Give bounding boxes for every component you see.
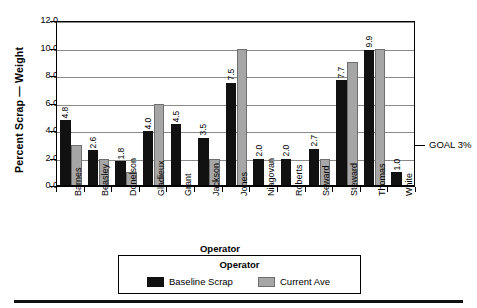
bar-baseline-scrap[interactable] <box>115 161 126 186</box>
x-tick-label: Donelson <box>129 158 138 196</box>
x-tick-label: Barnes <box>74 167 83 196</box>
bar-value-label: 7.7 <box>337 66 346 78</box>
bar-group: 2.0 <box>278 22 306 186</box>
chart-page: Percent Scrap — Weight 0.02.04.06.08.010… <box>0 0 477 308</box>
legend-label: Baseline Scrap <box>169 277 233 287</box>
goal-tick-mark <box>415 145 425 146</box>
x-tick-mark <box>111 187 112 192</box>
x-tick-label: Grant <box>184 173 193 196</box>
bar-value-label: 2.0 <box>282 145 291 157</box>
bar-group: 4.5 <box>167 22 195 186</box>
x-tick-label: Steward <box>350 163 359 196</box>
bar-value-label: 4.8 <box>61 106 70 118</box>
x-tick-mark <box>305 187 306 192</box>
x-axis-title: Operator <box>160 243 280 254</box>
x-tick-mark <box>387 187 388 192</box>
x-tick-mark <box>360 187 361 192</box>
bar-value-label: 2.7 <box>309 135 318 147</box>
legend-swatch-current-ave <box>258 277 275 287</box>
bar-group: 2.6 <box>85 22 113 186</box>
bar-baseline-scrap[interactable] <box>198 138 209 186</box>
bar-baseline-scrap[interactable] <box>171 124 182 186</box>
bar-baseline-scrap[interactable] <box>336 80 347 186</box>
bar-group: 4.8 <box>57 22 85 186</box>
bar-value-label: 1.8 <box>116 147 125 159</box>
bar-value-label: 9.9 <box>365 36 374 48</box>
x-tick-mark <box>222 187 223 192</box>
x-tick-mark <box>194 187 195 192</box>
bar-group: 7.5 <box>223 22 251 186</box>
x-tick-label: White <box>405 173 414 196</box>
bar-current-ave[interactable] <box>237 49 248 187</box>
x-tick-mark <box>332 187 333 192</box>
bar-group: 9.9 <box>361 22 389 186</box>
bar-baseline-scrap[interactable] <box>391 172 402 186</box>
goal-label: GOAL 3% <box>429 140 471 150</box>
x-axis-line <box>57 185 414 186</box>
bar-baseline-scrap[interactable] <box>226 83 237 186</box>
bar-value-label: 4.5 <box>171 110 180 122</box>
plot-area: 4.82.61.84.04.53.57.52.02.02.77.79.91.0 <box>56 21 415 187</box>
legend-swatch-baseline-scrap <box>147 277 164 287</box>
x-tick-label: Beasley <box>101 164 110 196</box>
x-tick-label: Seward <box>322 165 331 196</box>
bar-value-label: 4.0 <box>144 117 153 129</box>
x-tick-label: Niagovan <box>267 158 276 196</box>
bar-value-label: 1.0 <box>392 158 401 170</box>
x-tick-mark <box>56 187 57 192</box>
bar-baseline-scrap[interactable] <box>88 150 99 186</box>
bar-baseline-scrap[interactable] <box>60 120 71 186</box>
bar-group: 1.0 <box>388 22 416 186</box>
x-tick-mark <box>166 187 167 192</box>
bar-group: 7.7 <box>333 22 361 186</box>
legend-item[interactable]: Current Ave <box>258 275 330 289</box>
bar-value-label: 2.0 <box>254 145 263 157</box>
bar-series-container: 4.82.61.84.04.53.57.52.02.02.77.79.91.0 <box>57 22 414 186</box>
bar-baseline-scrap[interactable] <box>281 159 292 187</box>
bar-baseline-scrap[interactable] <box>309 149 320 186</box>
bar-baseline-scrap[interactable] <box>364 50 375 186</box>
x-tick-mark <box>139 187 140 192</box>
x-tick-label: Jackson <box>212 163 221 196</box>
bar-value-label: 7.5 <box>226 69 235 81</box>
x-tick-mark <box>249 187 250 192</box>
bottom-divider <box>14 300 463 303</box>
x-tick-label: Jones <box>240 172 249 196</box>
legend-item[interactable]: Baseline Scrap <box>147 275 233 289</box>
legend-title: Operator <box>119 259 360 270</box>
x-tick-label: Thomas <box>378 163 387 196</box>
x-tick-label: Gladieux <box>157 160 166 196</box>
bar-group: 3.5 <box>195 22 223 186</box>
bar-value-label: 3.5 <box>199 124 208 136</box>
chart-legend: Operator Baseline ScrapCurrent Ave <box>118 255 361 294</box>
bar-baseline-scrap[interactable] <box>253 159 264 187</box>
x-tick-mark <box>277 187 278 192</box>
legend-entries: Baseline ScrapCurrent Ave <box>119 275 360 289</box>
bar-baseline-scrap[interactable] <box>143 131 154 186</box>
bar-value-label: 2.6 <box>88 136 97 148</box>
bar-group: 2.7 <box>306 22 334 186</box>
x-tick-mark <box>415 187 416 192</box>
x-tick-mark <box>84 187 85 192</box>
x-tick-label: Roberts <box>295 164 304 196</box>
legend-label: Current Ave <box>280 277 330 287</box>
